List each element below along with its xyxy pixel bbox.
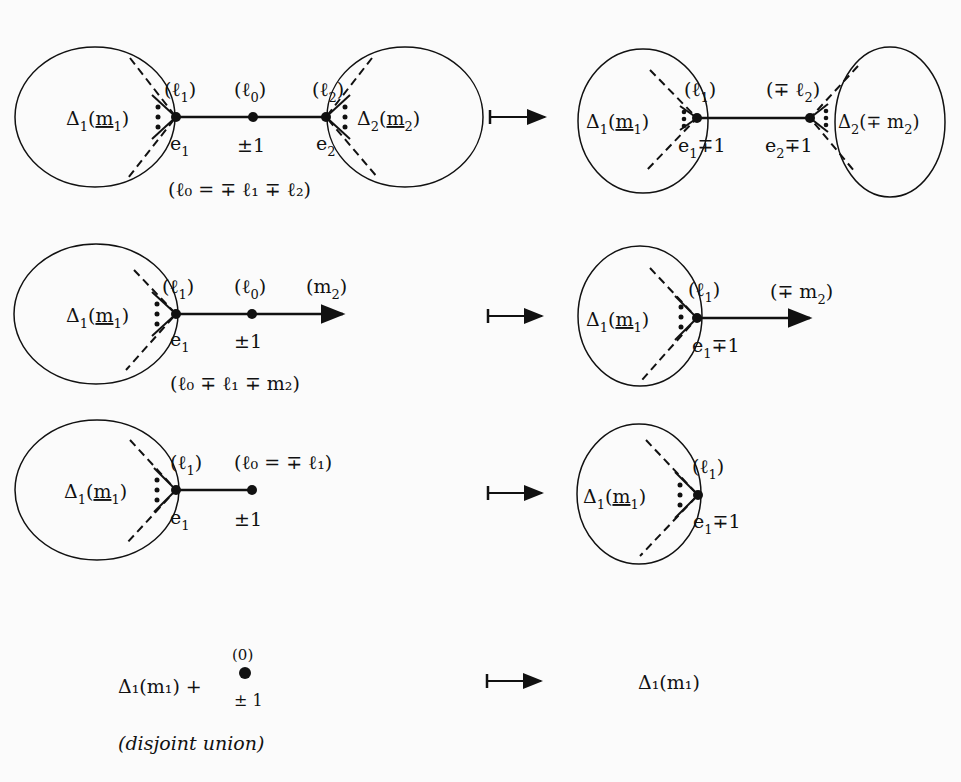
svg-text:(ℓ0): (ℓ0) [234,78,266,105]
svg-text:e1: e1 [170,132,190,159]
svg-text:(ℓ1): (ℓ1) [684,78,716,105]
svg-text:Δ1(m1): Δ1(m1) [66,304,129,331]
row1-right-graph: Δ1(m1) Δ2(∓ m2) (ℓ1) (∓ ℓ2) e1∓1 e2∓1 [578,47,945,197]
row2-left-graph: Δ1(m1) (ℓ1) (ℓ0) (m2) e1 ±1 (ℓ₀ ∓ ℓ₁ ∓ m… [14,244,347,394]
isolated-vertex [239,667,251,679]
svg-text:(ℓ1): (ℓ1) [692,455,724,482]
blob-delta2 [327,47,483,187]
svg-text:(ℓ₀ = ∓ ℓ₁): (ℓ₀ = ∓ ℓ₁) [234,451,332,473]
svg-text:(∓ ℓ2): (∓ ℓ2) [766,78,820,105]
svg-text:e1∓1: e1∓1 [692,334,740,361]
diagram-canvas: Δ1(m1) Δ2(m2) (ℓ1) (ℓ0) (ℓ2) e1 ±1 e2 (ℓ… [0,0,961,782]
row1-left-graph: Δ1(m1) Δ2(m2) (ℓ1) (ℓ0) (ℓ2) e1 ±1 e2 (ℓ… [15,47,483,200]
svg-text:± 1: ± 1 [234,691,263,710]
svg-text:e1: e1 [170,506,190,533]
svg-text:(ℓ1): (ℓ1) [170,451,202,478]
row4-left-expression: Δ₁(m₁) + (0) ± 1 (disjoint union) [118,646,264,754]
svg-text:(m2): (m2) [306,275,347,302]
maps-to-arrow [488,309,542,323]
svg-text:e1∓1: e1∓1 [678,134,726,161]
row3-left-graph: Δ1(m1) (ℓ1) (ℓ₀ = ∓ ℓ₁) e1 ±1 [15,420,332,560]
svg-text:(0): (0) [232,646,253,664]
vertex-pm1 [248,112,258,122]
maps-to-arrow [487,674,541,688]
svg-text:(∓ m2): (∓ m2) [770,280,833,307]
svg-text:(disjoint union): (disjoint union) [118,732,264,754]
row3-right-graph: Δ1(m1) (ℓ1) e1∓1 [577,424,741,564]
svg-text:(ℓ0): (ℓ0) [234,275,266,302]
svg-text:(ℓ1): (ℓ1) [688,278,720,305]
svg-text:(ℓ1): (ℓ1) [162,275,194,302]
vertex-e1 [171,112,181,122]
svg-text:Δ2(∓ m2): Δ2(∓ m2) [838,111,920,137]
svg-text:e2∓1: e2∓1 [765,134,813,161]
svg-text:e2: e2 [316,132,336,159]
svg-text:Δ2(m2): Δ2(m2) [357,107,420,134]
relation-label: (ℓ₀ = ∓ ℓ₁ ∓ ℓ₂) [168,178,311,200]
svg-text:±1: ±1 [234,330,262,352]
row2-right-graph: Δ1(m1) (ℓ1) (∓ m2) e1∓1 [578,246,833,386]
maps-to-arrow [490,110,545,124]
svg-text:e1: e1 [170,328,190,355]
maps-to-arrow [488,486,542,500]
svg-text:e1∓1: e1∓1 [693,510,741,537]
blob-edges-dashed [128,58,176,178]
svg-text:(ℓ₀ ∓ ℓ₁ ∓ m₂): (ℓ₀ ∓ ℓ₁ ∓ m₂) [170,372,300,394]
svg-text:(ℓ1): (ℓ1) [164,78,196,105]
row4-right-expression: Δ₁(m₁) [638,671,700,693]
svg-text:±1: ±1 [237,134,265,156]
svg-text:±1: ±1 [234,508,262,530]
svg-text:Δ1(m1): Δ1(m1) [586,308,649,335]
svg-text:Δ1(m1): Δ1(m1) [586,110,649,137]
svg-text:Δ₁(m₁): Δ₁(m₁) [638,671,700,693]
svg-text:Δ1(m1): Δ1(m1) [583,485,646,512]
svg-text:Δ₁(m₁) +: Δ₁(m₁) + [118,675,202,697]
svg-text:Δ1(m1): Δ1(m1) [66,107,129,134]
svg-text:Δ1(m1): Δ1(m1) [64,480,127,507]
